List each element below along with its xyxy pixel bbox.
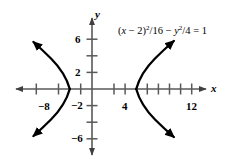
x-tick-label-4: 4 xyxy=(122,101,128,112)
x-axis-name-label: x xyxy=(211,83,217,94)
y-tick-label-neg2: −2 xyxy=(71,100,83,111)
equation-minus-h: − 2 xyxy=(126,25,142,36)
equation-annotation: (x − 2)2/16 − y2/4 = 1 xyxy=(118,26,207,37)
y-axis-name-label: y xyxy=(95,9,100,20)
equation-over-b-squared: /4 = 1 xyxy=(182,25,207,36)
x-tick-label-neg8: −8 xyxy=(38,101,50,112)
y-tick-label-neg6: −6 xyxy=(71,133,83,144)
x-tick-label-12: 12 xyxy=(186,101,197,112)
equation-over-a-squared: /16 − xyxy=(150,25,175,36)
hyperbola-figure: (x − 2)2/16 − y2/4 = 1 −8 4 12 6 2 −2 −6… xyxy=(0,0,227,162)
y-tick-label-2: 2 xyxy=(75,67,81,78)
y-tick-label-6: 6 xyxy=(75,34,81,45)
